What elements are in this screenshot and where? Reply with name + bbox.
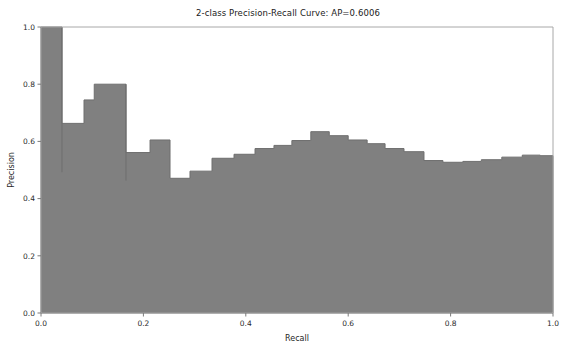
y-tick-label: 0.0 (23, 309, 35, 318)
x-tick-label: 0.2 (137, 319, 149, 328)
x-tick-label: 0.0 (35, 319, 47, 328)
precision-recall-figure: 2-class Precision-Recall Curve: AP=0.600… (0, 0, 576, 347)
y-tick-label: 0.2 (23, 252, 35, 261)
plot-area: 0.00.20.40.60.81.00.00.20.40.60.81.0Reca… (7, 23, 559, 343)
x-tick-label: 0.4 (240, 319, 252, 328)
x-tick-label: 0.8 (445, 319, 457, 328)
pr-curve-area (41, 27, 553, 313)
y-tick-label: 0.6 (23, 137, 35, 146)
y-axis-title: Precision (7, 152, 16, 188)
y-tick-label: 1.0 (23, 23, 35, 32)
precision-recall-chart: 0.00.20.40.60.81.00.00.20.40.60.81.0Reca… (0, 0, 576, 347)
x-tick-label: 1.0 (547, 319, 559, 328)
y-tick-label: 0.8 (23, 80, 35, 89)
x-axis-title: Recall (285, 334, 309, 343)
y-tick-label: 0.4 (23, 194, 35, 203)
x-tick-label: 0.6 (342, 319, 354, 328)
